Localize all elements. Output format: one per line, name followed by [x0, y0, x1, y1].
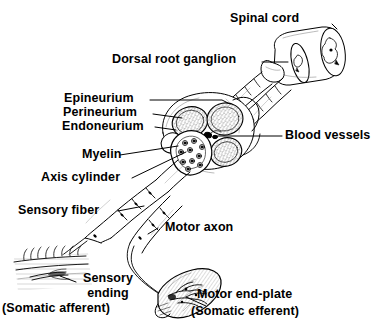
nerve-diagram-artwork [0, 0, 382, 331]
label-epineurium: Epineurium [64, 92, 134, 106]
label-sensory-ending-line1: Sensory [68, 272, 148, 286]
spinal-cord-segment [274, 27, 348, 86]
label-motor-axon: Motor axon [165, 221, 233, 235]
label-endoneurium: Endoneurium [62, 120, 144, 134]
label-sensory-ending-line2: ending [68, 287, 148, 301]
label-blood-vessels: Blood vessels [285, 129, 370, 143]
label-motor-end-plate-qualifier: (Somatic efferent) [191, 305, 299, 319]
label-myelin: Myelin [82, 148, 122, 162]
label-motor-end-plate: Motor end-plate [197, 288, 292, 302]
label-axis-cylinder: Axis cylinder [41, 171, 120, 185]
label-sensory-fiber: Sensory fiber [18, 204, 99, 218]
label-dorsal-root-ganglion: Dorsal root ganglion [112, 53, 236, 67]
label-spinal-cord: Spinal cord [230, 12, 299, 26]
label-perineurium: Perineurium [63, 106, 137, 120]
myelinated-fibers [85, 180, 182, 253]
nerve-anatomy-figure: Spinal cord Dorsal root ganglion Epineur… [0, 0, 382, 331]
label-sensory-ending-qualifier: (Somatic afferent) [2, 302, 110, 316]
